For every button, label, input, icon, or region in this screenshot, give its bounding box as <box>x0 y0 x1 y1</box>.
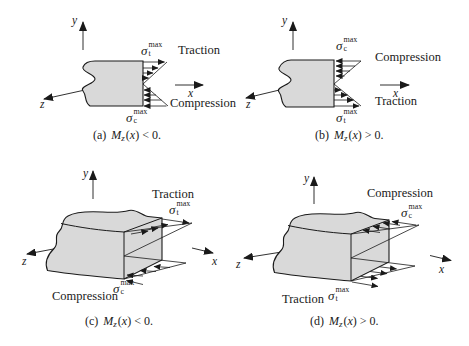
sigma-t-max-d: σ maxt <box>328 286 349 303</box>
sigma-c-max-a: σ maxc <box>126 108 147 125</box>
beam-d <box>273 212 389 281</box>
sigma-sub: c <box>133 117 147 126</box>
beam-c <box>46 210 162 279</box>
sigma-symbol: σ <box>126 111 132 125</box>
compression-label-d: Compression <box>367 187 433 200</box>
y-axis-label-d: y <box>304 172 309 185</box>
sigma-c-max-d: σ maxc <box>401 203 422 220</box>
traction-label-d: Traction <box>282 293 324 306</box>
z-axis-label-d: z <box>236 258 240 271</box>
compression-fan-b <box>334 61 361 84</box>
compression-label-b: Compression <box>375 51 441 64</box>
beam-b <box>278 60 334 107</box>
panel-a-drawing <box>44 22 203 106</box>
sigma-c-max-c: σ maxc <box>113 279 134 296</box>
sigma-sub: c <box>408 212 422 221</box>
sigma-sub: c <box>120 288 134 297</box>
sigma-sub: t <box>176 209 190 218</box>
caption-b: (b)Mz(x) > 0. <box>315 129 384 145</box>
sigma-sub: c <box>343 45 357 54</box>
sigma-symbol: σ <box>401 206 407 220</box>
z-axis-label-c: z <box>22 255 26 268</box>
sigma-sub: t <box>335 295 349 304</box>
sigma-sub: t <box>343 117 357 126</box>
sigma-t-max-a: σ maxt <box>141 41 162 58</box>
x-axis-label-c: x <box>212 255 217 268</box>
z-axis-label-b: z <box>246 98 250 111</box>
x-axis-d <box>430 256 451 261</box>
sigma-t-max-c: σ maxt <box>169 200 190 217</box>
compression-label-a: Compression <box>170 97 236 110</box>
beam-a <box>82 61 143 106</box>
sigma-symbol: σ <box>336 111 342 125</box>
y-axis-label-b: y <box>282 14 287 27</box>
x-axis-label-d: x <box>439 263 444 276</box>
sigma-c-max-b: σ maxc <box>336 36 357 53</box>
traction-label-b: Traction <box>375 95 417 108</box>
sigma-symbol: σ <box>336 39 342 53</box>
y-axis-label-c: y <box>83 167 88 180</box>
y-axis-label-a: y <box>72 14 77 27</box>
traction-fan-a <box>143 62 167 84</box>
traction-fan-b <box>334 84 361 106</box>
z-axis-label-a: z <box>40 98 44 111</box>
compression-fan-a <box>143 84 168 106</box>
bending-stress-figure: y z x Traction Compression σ maxt σ maxc… <box>0 0 469 346</box>
sigma-symbol: σ <box>113 282 119 296</box>
compression-label-c: Compression <box>52 290 118 303</box>
traction-label-a: Traction <box>178 44 220 57</box>
caption-a: (a)Mz(x) < 0. <box>93 129 161 145</box>
sigma-t-max-b: σ maxt <box>336 108 357 125</box>
sigma-sub: t <box>148 50 162 59</box>
sigma-symbol: σ <box>328 289 334 303</box>
caption-c: (c)Mz(x) < 0. <box>85 315 153 331</box>
sigma-symbol: σ <box>169 203 175 217</box>
x-axis-c <box>192 248 213 253</box>
sigma-symbol: σ <box>141 44 147 58</box>
caption-d: (d)Mz(x) > 0. <box>310 315 379 331</box>
